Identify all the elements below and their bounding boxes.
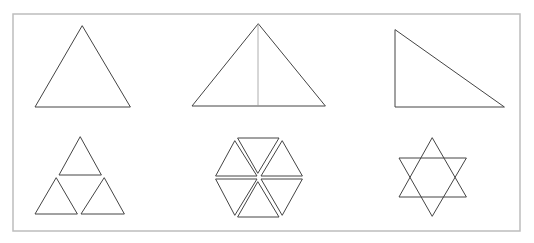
right-triangle-outline: [395, 30, 504, 107]
shapes-group: [35, 24, 504, 217]
hexagon-of-six-triangles: [216, 138, 302, 217]
figure-frame: [13, 14, 520, 231]
three-triangles-pyramid-triangle-3: [81, 178, 124, 214]
six-pointed-star-triangle-1: [399, 138, 466, 197]
hexagon-of-six-triangles-triangle-3: [216, 179, 257, 215]
hexagon-of-six-triangles-triangle-2: [216, 141, 257, 176]
three-triangles-pyramid: [35, 137, 124, 214]
triangle-with-altitude-outline: [192, 24, 325, 106]
right-triangle: [395, 30, 504, 107]
six-pointed-star-triangle-2: [399, 158, 466, 216]
three-triangles-pyramid-triangle-1: [59, 137, 101, 175]
equilateral-triangle-outline: [35, 26, 130, 107]
three-triangles-pyramid-triangle-2: [35, 178, 77, 214]
triangle-figures-diagram: [0, 0, 534, 243]
six-pointed-star: [399, 138, 466, 216]
triangle-with-altitude: [192, 24, 325, 106]
equilateral-triangle: [35, 26, 130, 107]
